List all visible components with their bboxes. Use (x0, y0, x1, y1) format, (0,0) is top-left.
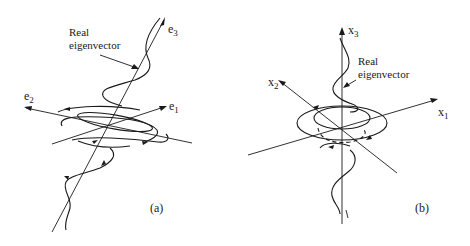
x1-axis (248, 100, 435, 155)
annotation-real: Real (358, 55, 378, 67)
trajectory-upper (333, 38, 358, 112)
x2-label: x2 (268, 75, 279, 91)
eigenvector-diagram: Real eigenvector e3 e2 e1 (a) (0, 0, 470, 246)
annotation-eigenvector: eigenvector (69, 39, 121, 51)
flow-arrow-icon (328, 145, 334, 149)
e3-label: e3 (168, 22, 178, 38)
annotation-pointer (100, 55, 137, 68)
e2-label: e2 (24, 89, 34, 105)
trajectory-lower (65, 148, 114, 230)
annotation-eigenvector: eigenvector (358, 68, 410, 80)
panel-a: Real eigenvector e3 e2 e1 (a) (24, 17, 192, 232)
spiral-ring-4 (78, 141, 130, 147)
e3-arrowhead-icon (160, 17, 165, 26)
x1-arrowhead-icon (430, 98, 438, 103)
flow-arrow-icon (92, 140, 98, 144)
trajectory-upper (103, 18, 160, 106)
e1-arrowhead-icon (159, 106, 167, 111)
x3-arrowhead-icon (339, 27, 345, 35)
panel-b: Real eigenvector x3 x2 x1 (b) (248, 23, 449, 224)
annotation-arrowhead-icon (343, 82, 350, 88)
diagram-canvas: Real eigenvector e3 e2 e1 (a) (0, 0, 470, 246)
x3-label: x3 (348, 23, 359, 39)
annotation-real: Real (69, 26, 89, 38)
panel-b-caption: (b) (415, 201, 429, 215)
x1-label: x1 (438, 105, 449, 121)
flow-arrow-icon (64, 107, 70, 111)
tick-mark (346, 210, 348, 218)
e2-arrowhead-icon (24, 106, 32, 111)
spiral-ring-top (58, 106, 140, 112)
trajectory-lower (332, 150, 355, 214)
panel-a-caption: (a) (150, 201, 163, 215)
spiral-ring-lower (320, 143, 350, 148)
e1-label: e1 (169, 99, 179, 115)
